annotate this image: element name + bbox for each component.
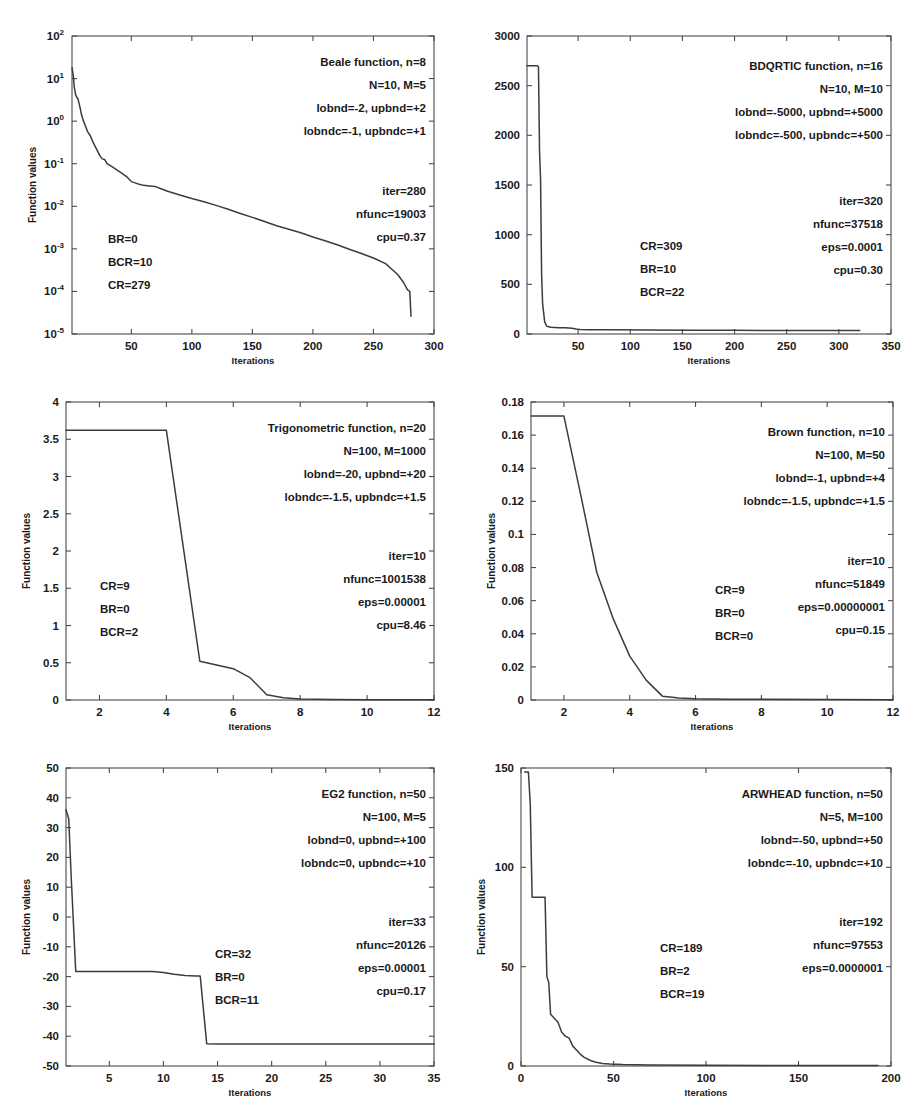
annotation-stat-line: cpu=0.15 — [835, 624, 885, 636]
annotation-counter-line: CR=32 — [215, 948, 251, 960]
x-tick-label: 30 — [373, 1072, 386, 1084]
annotation-counter-line: BCR=2 — [100, 626, 138, 638]
plot-frame — [531, 402, 893, 700]
x-tick-label: 150 — [243, 340, 262, 352]
y-tick-label: 0.06 — [502, 595, 524, 607]
x-tick-label: 100 — [621, 340, 640, 352]
y-tick-label: 0.1 — [508, 528, 525, 540]
x-tick-label: 10 — [821, 706, 834, 718]
x-tick-label: 200 — [881, 1072, 900, 1084]
annotation-stat-line: iter=33 — [389, 916, 426, 928]
x-tick-label: 50 — [607, 1072, 620, 1084]
annotation-stat-line: eps=0.0001 — [821, 241, 883, 253]
annotation-stat-line: nfunc=37518 — [813, 218, 884, 230]
y-tick-label: 1500 — [494, 179, 520, 191]
x-tick-label: 50 — [572, 340, 585, 352]
y-tick-label: 1 — [53, 620, 60, 632]
x-tick-label: 10 — [157, 1072, 170, 1084]
y-tick-label: 0.5 — [43, 657, 60, 669]
annotation-stat-line: iter=10 — [848, 555, 885, 567]
annotation-stat-line: iter=280 — [382, 185, 426, 197]
y-tick-label: 4 — [53, 396, 60, 408]
x-tick-label: 250 — [777, 340, 796, 352]
chart-eg2: 5101520253035-50-40-30-20-1001020304050F… — [0, 736, 455, 1106]
panel-eg2: 5101520253035-50-40-30-20-1001020304050F… — [0, 736, 455, 1106]
y-axis-title: Function values — [476, 879, 487, 956]
figure-grid: 5010015020025030010-510-410-310-210-1100… — [0, 0, 910, 1106]
annotation-header-line: N=100, M=1000 — [344, 445, 426, 457]
y-axis-title: Function values — [27, 147, 38, 224]
y-tick-label: 102 — [47, 28, 65, 42]
y-tick-label: 0 — [53, 911, 59, 923]
annotation-stat-line: eps=0.0000001 — [802, 962, 883, 974]
annotation-stat-line: nfunc=19003 — [356, 208, 426, 220]
annotation-stat-line: nfunc=1001538 — [343, 573, 426, 585]
y-tick-label: 0.18 — [502, 396, 525, 408]
annotation-header-line: lobnd=-50, upbnd=+50 — [761, 834, 883, 846]
annotation-header-line: Trigonometric function, n=20 — [268, 422, 426, 434]
x-tick-label: 6 — [230, 706, 236, 718]
annotation-header-line: Brown function, n=10 — [768, 426, 885, 438]
chart-bdqrtic: 5010015020025030035005001000150020002500… — [455, 0, 910, 370]
y-axis-title: Function values — [21, 513, 32, 590]
x-tick-label: 4 — [163, 706, 170, 718]
annotation-stat-line: iter=192 — [839, 916, 883, 928]
y-tick-label: 0.16 — [502, 429, 524, 441]
y-tick-label: 50 — [46, 762, 59, 774]
y-tick-label: 10-1 — [44, 156, 64, 170]
y-tick-label: -40 — [42, 1030, 59, 1042]
annotation-stat-line: cpu=0.37 — [376, 231, 426, 243]
y-tick-label: 0.08 — [502, 562, 525, 574]
plot-frame — [527, 36, 891, 334]
annotation-stat-line: eps=0.00001 — [358, 596, 427, 608]
y-axis-title: Function values — [486, 513, 497, 590]
x-tick-label: 35 — [428, 1072, 441, 1084]
annotation-header-line: ARWHEAD function, n=50 — [742, 788, 883, 800]
y-tick-label: 0.12 — [502, 495, 524, 507]
annotation-stat-line: eps=0.00001 — [358, 962, 427, 974]
x-axis-title: Iterations — [229, 1087, 272, 1098]
y-tick-label: -50 — [42, 1060, 59, 1072]
annotation-stat-line: iter=10 — [389, 550, 426, 562]
x-axis-title: Iterations — [685, 1087, 728, 1098]
annotation-header-line: N=100, M=5 — [363, 811, 427, 823]
x-tick-label: 8 — [758, 706, 765, 718]
x-axis-title: Iterations — [229, 721, 272, 732]
y-tick-label: 10-2 — [44, 198, 64, 212]
y-tick-label: 20 — [46, 851, 59, 863]
y-tick-label: 3.5 — [43, 433, 60, 445]
annotation-header-line: N=10, M=5 — [369, 79, 426, 91]
annotation-counter-line: BCR=22 — [640, 286, 684, 298]
chart-arwhead: 050100150200050100150Function valuesIter… — [455, 736, 910, 1106]
x-tick-label: 12 — [887, 706, 900, 718]
y-tick-label: 2 — [53, 545, 59, 557]
annotation-header-line: Beale function, n=8 — [320, 56, 426, 68]
y-tick-label: 1000 — [494, 229, 520, 241]
x-tick-label: 25 — [319, 1072, 332, 1084]
annotation-stat-line: nfunc=51849 — [815, 578, 885, 590]
annotation-header-line: lobnd=-20, upbnd=+20 — [304, 468, 426, 480]
y-tick-label: 10-5 — [44, 326, 64, 340]
annotation-counter-line: BR=0 — [715, 607, 745, 619]
annotation-counter-line: BCR=0 — [715, 630, 753, 642]
x-tick-label: 15 — [211, 1072, 224, 1084]
annotation-header-line: lobndc=-1, upbndc=+1 — [304, 125, 427, 137]
annotation-counter-line: CR=279 — [108, 279, 151, 291]
annotation-header-line: lobndc=-1.5, upbndc=+1.5 — [284, 491, 426, 503]
y-tick-label: 0 — [53, 694, 59, 706]
annotation-header-line: lobnd=-2, upbnd=+2 — [316, 102, 426, 114]
annotation-header-line: lobndc=-500, upbndc=+500 — [735, 129, 883, 141]
x-tick-label: 0 — [518, 1072, 524, 1084]
panel-arwhead: 050100150200050100150Function valuesIter… — [455, 736, 910, 1106]
x-tick-label: 200 — [303, 340, 322, 352]
y-tick-label: 3000 — [494, 30, 520, 42]
y-tick-label: 0.02 — [502, 661, 524, 673]
x-tick-label: 20 — [265, 1072, 278, 1084]
panel-brown: 2468101200.020.040.060.080.10.120.140.16… — [455, 370, 910, 736]
annotation-header-line: lobndc=-10, upbndc=+10 — [748, 857, 883, 869]
y-tick-label: 10-4 — [44, 283, 64, 297]
x-tick-label: 300 — [829, 340, 848, 352]
x-tick-label: 150 — [673, 340, 692, 352]
annotation-counter-line: BR=2 — [660, 965, 690, 977]
y-tick-label: 2500 — [494, 80, 520, 92]
